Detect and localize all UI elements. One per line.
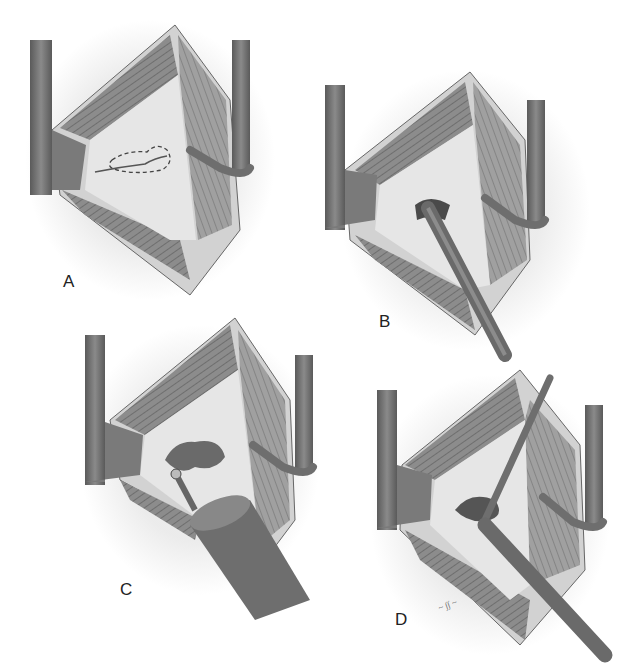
panel-a: A [0, 0, 315, 320]
panel-label-a: A [63, 272, 74, 292]
panel-c: C [60, 310, 360, 620]
panel-label-d: D [395, 610, 407, 630]
panel-d: D ~ ∫∫ ~ [360, 360, 630, 668]
surgical-field-c-illustration [60, 310, 360, 620]
panel-label-b: B [379, 312, 390, 332]
panel-b: B [315, 60, 630, 380]
surgical-field-b-illustration [315, 60, 630, 380]
panel-label-c: C [120, 580, 132, 600]
surgical-field-a-illustration [0, 0, 315, 320]
